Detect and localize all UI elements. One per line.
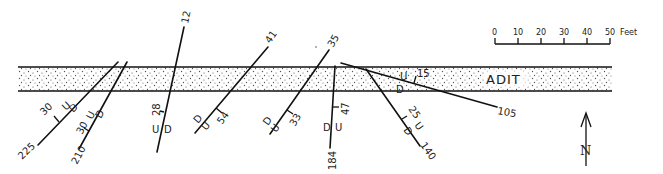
svg-text:25: 25: [406, 104, 422, 121]
scale-tick-20: 20: [536, 28, 546, 37]
scale-tick-10: 10: [513, 28, 523, 37]
scale-tick-40: 40: [582, 28, 592, 37]
adit-label: ADIT: [486, 72, 521, 87]
scale-tick-30: 30: [559, 28, 569, 37]
north-arrow: N: [580, 113, 591, 166]
svg-text:15: 15: [417, 68, 430, 79]
svg-text:U: U: [400, 71, 407, 82]
svg-text:30: 30: [38, 101, 55, 118]
svg-text:184: 184: [327, 151, 338, 170]
scale-bar: 0 10 20 30 40 50 Feet: [492, 28, 637, 44]
svg-text:35: 35: [325, 32, 341, 49]
svg-text:U: U: [152, 124, 159, 135]
svg-text:54: 54: [215, 109, 231, 126]
scale-tick-50: 50: [605, 28, 615, 37]
svg-text:28: 28: [151, 103, 162, 116]
svg-text:105: 105: [497, 105, 518, 119]
svg-text:41: 41: [263, 28, 279, 45]
svg-text:D: D: [396, 84, 404, 95]
svg-text:U: U: [335, 122, 342, 133]
svg-text:210: 210: [69, 144, 88, 166]
svg-text:47: 47: [340, 102, 351, 115]
svg-text:N: N: [580, 143, 591, 158]
geologic-fault-map: ADIT 30 U D 225 30 U D 210 28 U D 12 54 …: [0, 0, 663, 174]
svg-text:140: 140: [418, 140, 438, 162]
svg-text:225: 225: [16, 140, 37, 161]
scale-unit: Feet: [620, 28, 637, 37]
svg-text:12: 12: [179, 10, 192, 25]
svg-text:D: D: [164, 124, 172, 135]
svg-text:D: D: [323, 122, 331, 133]
scale-tick-0: 0: [492, 28, 497, 37]
svg-text:33: 33: [287, 111, 303, 128]
svg-text:U: U: [199, 120, 212, 133]
